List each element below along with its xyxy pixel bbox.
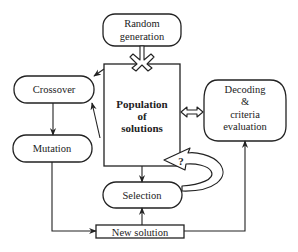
population-line2: of	[137, 110, 147, 122]
selection-node: Selection	[103, 182, 182, 208]
arrow-population-to-crossover-2	[92, 103, 100, 138]
random-generation-node: Random generation	[103, 14, 181, 46]
population-line1: Population	[116, 98, 167, 110]
flowchart-canvas: Random generation Population of solution…	[0, 0, 298, 252]
mutation-label: Mutation	[33, 143, 72, 154]
decoding-line3: criteria	[230, 109, 260, 120]
selection-label: Selection	[122, 190, 162, 201]
population-line3: solutions	[121, 122, 163, 134]
decoding-node: Decoding & criteria evaluation	[204, 80, 286, 141]
decoding-line2: &	[241, 96, 249, 107]
new-solution-node: New solution	[96, 225, 184, 238]
crossover-label: Crossover	[33, 84, 76, 95]
double-arrow-icon	[181, 107, 203, 117]
decoding-line1: Decoding	[225, 84, 267, 95]
population-node: Population of solutions	[104, 64, 180, 166]
crossover-node: Crossover	[14, 76, 94, 103]
decoding-line4: evaluation	[223, 121, 267, 132]
random-generation-line1: Random	[124, 18, 160, 29]
mutation-node: Mutation	[13, 135, 92, 162]
arrow-population-to-crossover	[94, 69, 104, 76]
new-solution-label: New solution	[112, 227, 169, 238]
arrow-mutation-to-new-solution	[52, 162, 96, 231]
random-generation-line2: generation	[120, 31, 165, 42]
question-mark: ?	[178, 155, 184, 167]
